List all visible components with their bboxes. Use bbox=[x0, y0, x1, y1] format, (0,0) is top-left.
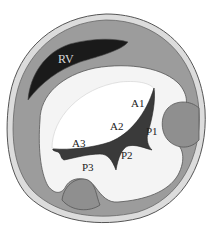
label-a3: A3 bbox=[72, 138, 85, 149]
label-p2: P2 bbox=[121, 150, 133, 161]
label-p1: P1 bbox=[146, 126, 158, 137]
mitral-valve-diagram: RV A1 A2 A3 P1 P2 P3 bbox=[0, 0, 213, 230]
label-a1: A1 bbox=[131, 98, 144, 109]
label-rv: RV bbox=[58, 53, 74, 65]
label-p3: P3 bbox=[82, 162, 94, 173]
right-papillary-bump bbox=[162, 102, 199, 147]
heart-cross-section-graphic bbox=[0, 0, 213, 230]
label-a2: A2 bbox=[110, 121, 123, 132]
